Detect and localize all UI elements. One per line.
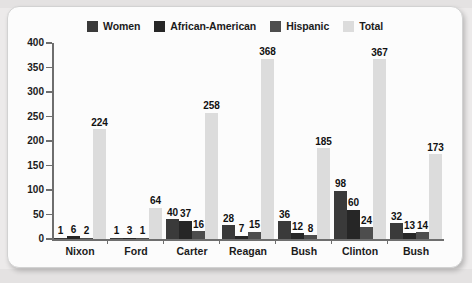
y-axis-tick-label: 350: [10, 63, 44, 73]
x-axis-group-separator: [275, 239, 277, 244]
bar-wrapper: 36: [278, 221, 291, 239]
bar[interactable]: [136, 238, 149, 240]
legend-item-label: Women: [103, 20, 140, 32]
bar-value-label: 15: [249, 220, 260, 231]
bar[interactable]: [261, 59, 274, 239]
bar-wrapper: 15: [248, 232, 261, 239]
bar-value-label: 98: [335, 179, 346, 190]
y-axis-tick-label: 100: [10, 185, 44, 195]
bar-group-reagan-3: 28715368: [220, 43, 276, 239]
bar-wrapper: 13: [403, 233, 416, 239]
bar-wrapper: 173: [429, 154, 442, 239]
legend-item-hispanic: Hispanic: [270, 20, 329, 32]
x-axis-label-clinton-5: Clinton: [332, 245, 388, 257]
bar[interactable]: [235, 236, 248, 239]
bar[interactable]: [373, 59, 386, 239]
bar-value-label: 13: [404, 221, 415, 232]
legend-swatch-icon: [154, 21, 165, 32]
bar-value-label: 28: [223, 214, 234, 225]
bar[interactable]: [347, 210, 360, 239]
bar[interactable]: [192, 231, 205, 239]
x-axis-label-bush-4: Bush: [276, 245, 332, 257]
bar[interactable]: [334, 191, 347, 239]
bar[interactable]: [67, 236, 80, 239]
bar-wrapper: 14: [416, 232, 429, 239]
bar-value-label: 36: [279, 210, 290, 221]
bar[interactable]: [291, 233, 304, 239]
bar-value-label: 367: [371, 48, 388, 59]
bar-value-label: 16: [193, 220, 204, 231]
x-axis-group-separator: [219, 239, 221, 244]
bar-value-label: 37: [180, 209, 191, 220]
bar-value-label: 40: [167, 208, 178, 219]
bar[interactable]: [179, 221, 192, 239]
bar[interactable]: [123, 238, 136, 240]
bar-value-label: 7: [239, 224, 245, 235]
bar-wrapper: 64: [149, 208, 162, 239]
bar[interactable]: [317, 148, 330, 239]
bar-value-label: 3: [127, 226, 133, 237]
bar[interactable]: [80, 238, 93, 240]
legend-item-label: African-American: [170, 20, 256, 32]
x-axis-group-separator: [387, 239, 389, 244]
bar-value-label: 258: [203, 101, 220, 112]
bar[interactable]: [93, 129, 106, 239]
bar[interactable]: [304, 235, 317, 239]
bar-value-label: 224: [91, 118, 108, 129]
bar[interactable]: [166, 219, 179, 239]
bar[interactable]: [110, 238, 123, 240]
x-axis-group-separator: [331, 239, 333, 244]
legend-swatch-icon: [87, 21, 98, 32]
plot-area: 400350300250200150100500 162224131644037…: [52, 43, 444, 239]
bar-wrapper: 8: [304, 235, 317, 239]
bar-value-label: 173: [427, 143, 444, 154]
bar-wrapper: 7: [235, 236, 248, 239]
legend-item-african-american: African-American: [154, 20, 256, 32]
bar[interactable]: [149, 208, 162, 239]
x-axis-label-carter-2: Carter: [164, 245, 220, 257]
bar[interactable]: [416, 232, 429, 239]
legend-item-label: Hispanic: [286, 20, 329, 32]
bar-group-bush-6: 321314173: [388, 43, 444, 239]
x-axis-group-separator: [107, 239, 109, 244]
bar-value-label: 12: [292, 222, 303, 233]
x-axis-line: [52, 239, 444, 241]
x-axis-group-separator: [163, 239, 165, 244]
bar-value-label: 1: [114, 226, 120, 237]
bar[interactable]: [403, 233, 416, 239]
bar-wrapper: 1: [54, 238, 67, 240]
bar-wrapper: 6: [67, 236, 80, 239]
bar-wrapper: 28: [222, 225, 235, 239]
bar-group-clinton-5: 986024367: [332, 43, 388, 239]
bar-value-label: 60: [348, 198, 359, 209]
bar-value-label: 24: [361, 216, 372, 227]
bar[interactable]: [429, 154, 442, 239]
bar[interactable]: [205, 113, 218, 239]
bar-value-label: 32: [391, 212, 402, 223]
legend-item-women: Women: [87, 20, 140, 32]
bar-value-label: 368: [259, 47, 276, 58]
bar[interactable]: [54, 238, 67, 240]
bar-wrapper: 16: [192, 231, 205, 239]
bar-group-nixon-0: 162224: [52, 43, 108, 239]
legend-swatch-icon: [270, 21, 281, 32]
bar[interactable]: [222, 225, 235, 239]
bar-wrapper: 367: [373, 59, 386, 239]
bar-value-label: 6: [71, 225, 77, 236]
bar[interactable]: [360, 227, 373, 239]
legend-item-label: Total: [359, 20, 383, 32]
legend-swatch-icon: [343, 21, 354, 32]
bar[interactable]: [278, 221, 291, 239]
backdrop-bottom-band: [0, 269, 472, 283]
bar[interactable]: [248, 232, 261, 239]
y-axis-tick-label: 300: [10, 87, 44, 97]
y-axis-tick-label: 50: [10, 210, 44, 220]
bar-group-carter-2: 403716258: [164, 43, 220, 239]
bar[interactable]: [390, 223, 403, 239]
chart-card: WomenAfrican-AmericanHispanicTotal 40035…: [7, 6, 463, 268]
bar-wrapper: 224: [93, 129, 106, 239]
bar-wrapper: 1: [136, 238, 149, 240]
bar-wrapper: 185: [317, 148, 330, 239]
legend-item-total: Total: [343, 20, 383, 32]
y-axis-tick-label: 250: [10, 112, 44, 122]
